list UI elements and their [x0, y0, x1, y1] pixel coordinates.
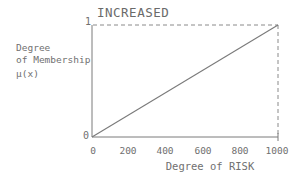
- chart-title: INCREASED: [97, 5, 169, 20]
- y-axis-label-line2: of Membership: [16, 54, 90, 66]
- y-tick-1: 1: [85, 16, 91, 27]
- x-tick-label-400: 400: [156, 145, 173, 156]
- x-axis-label: Degree of RISK: [166, 160, 255, 172]
- x-tick-label-0: 0: [90, 145, 96, 156]
- x-tick-label-600: 600: [194, 145, 211, 156]
- x-tick-label-800: 800: [231, 145, 248, 156]
- x-tick-label-1000: 1000: [266, 145, 289, 156]
- y-axis-label-line1: Degree: [16, 42, 50, 54]
- chart-plot-area: [0, 0, 297, 183]
- x-tick-label-200: 200: [119, 145, 136, 156]
- y-tick-0: 0: [83, 130, 89, 141]
- y-axis-label-line3: μ(x): [16, 68, 39, 80]
- membership-line: [92, 25, 278, 137]
